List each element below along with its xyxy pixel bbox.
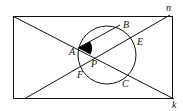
label-C: C — [122, 78, 129, 89]
label-A: A — [68, 46, 76, 57]
label-n: n — [166, 2, 171, 13]
geometry-diagram: A B E P F C n k — [0, 0, 183, 111]
circle — [78, 26, 136, 84]
label-B: B — [123, 19, 129, 30]
label-F: F — [76, 69, 84, 80]
label-P: P — [90, 58, 97, 69]
label-k: k — [172, 99, 177, 110]
label-E: E — [136, 36, 143, 47]
